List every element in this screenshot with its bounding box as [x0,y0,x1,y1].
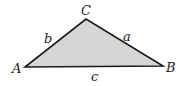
vertex-label-c: C [81,3,91,18]
vertex-label-b: B [165,60,176,75]
triangle-diagram: C A B b a c [0,0,181,86]
side-label-b: b [44,31,52,46]
side-label-c: c [91,69,99,84]
side-label-a: a [123,29,131,44]
vertex-label-a: A [11,61,21,76]
